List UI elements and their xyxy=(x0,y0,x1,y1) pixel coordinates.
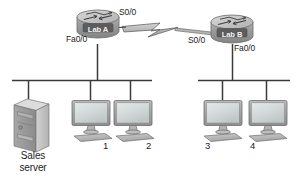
workstation-1-label: 1 xyxy=(103,141,108,151)
sales-server-label-line1: Sales xyxy=(3,150,63,161)
workstation-1-icon xyxy=(72,101,112,142)
workstation-4-icon xyxy=(249,101,287,142)
router-lab-b-name: Lab B xyxy=(217,30,247,39)
workstation-2-icon xyxy=(114,101,154,142)
interface-label-lab-b-serial: S0/0 xyxy=(188,36,205,45)
workstation-3-label: 3 xyxy=(205,141,210,151)
sales-server-label-line2: server xyxy=(3,162,63,173)
router-lab-a-name: Lab A xyxy=(83,25,113,34)
interface-label-lab-a-serial: S0/0 xyxy=(119,8,136,17)
network-topology-diagram: Lab A Lab B S0/0 Fa0/0 S0/0 Fa0/0 1 2 3 … xyxy=(0,0,301,185)
workstation-3-icon xyxy=(204,101,242,142)
left-lan-bus xyxy=(12,44,152,100)
workstation-2-label: 2 xyxy=(146,141,151,151)
workstation-4-label: 4 xyxy=(250,141,255,151)
interface-label-lab-a-ethernet: Fa0/0 xyxy=(66,35,87,44)
interface-label-lab-b-ethernet: Fa0/0 xyxy=(234,44,255,53)
sales-server-icon xyxy=(14,99,49,152)
